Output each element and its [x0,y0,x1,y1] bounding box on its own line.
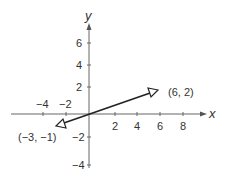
coordinate-plane: x y −4 −2 2 4 6 8 6 4 2 −2 −4 (6, 2) (−3… [0,0,227,178]
arrowhead-open-icon [56,119,66,128]
y-tick-label: 2 [76,81,82,93]
x-axis-label: x [208,106,216,121]
arrowhead-open-icon [148,88,158,97]
x-tick-label: 8 [180,120,186,132]
x-tick-label: −4 [36,98,49,110]
endpoint-label-a: (6, 2) [168,86,194,98]
y-axis-arrow-icon [87,23,92,30]
x-tick-label: 4 [134,120,140,132]
x-tick-label: 6 [157,120,163,132]
y-tick-label: −4 [72,159,85,171]
x-tick-label: −2 [59,98,72,110]
y-tick-label: 6 [76,37,82,49]
y-axis-label: y [84,8,93,23]
x-axis-arrow-icon [200,112,207,117]
y-tick-label: 4 [76,59,82,71]
x-tick-label: 2 [112,120,118,132]
endpoint-label-b: (−3, −1) [18,131,57,143]
y-tick-label: −2 [72,131,85,143]
